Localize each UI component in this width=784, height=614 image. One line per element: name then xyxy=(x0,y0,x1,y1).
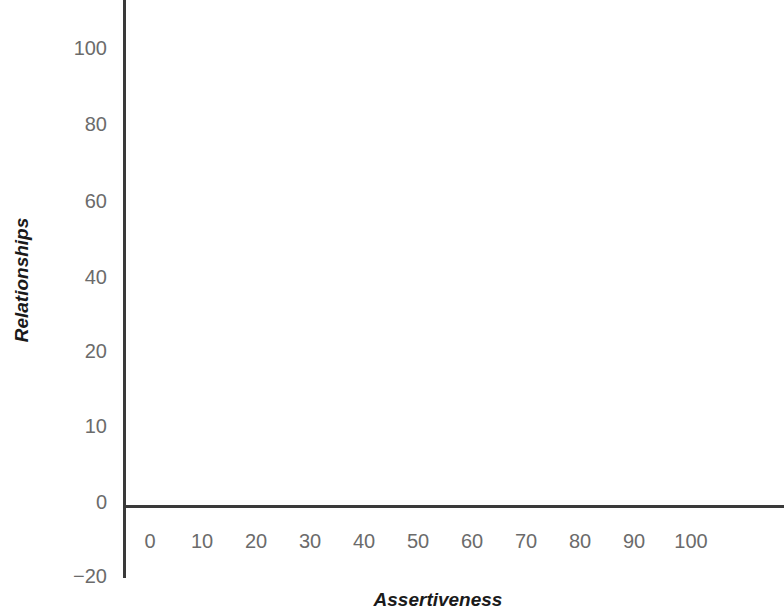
x-axis-tick-label: 40 xyxy=(353,531,375,551)
y-axis-tick-label: 10 xyxy=(85,416,107,436)
chart-canvas: 10080604020100−20 0102030405060708090100… xyxy=(0,0,784,614)
y-axis-tick-label: 80 xyxy=(85,114,107,134)
y-axis-tick-label: −20 xyxy=(73,566,107,586)
y-axis-tick-label: 60 xyxy=(85,191,107,211)
y-axis-tick-label: 100 xyxy=(74,38,107,58)
x-axis-tick-label: 10 xyxy=(191,531,213,551)
x-axis-line xyxy=(123,505,784,508)
x-axis-tick-label: 50 xyxy=(407,531,429,551)
y-axis-title: Relationships xyxy=(11,218,33,343)
y-axis-tick-label: 0 xyxy=(96,492,107,512)
x-axis-tick-label: 20 xyxy=(245,531,267,551)
x-axis-tick-label: 30 xyxy=(299,531,321,551)
plot-area xyxy=(126,0,784,505)
x-axis-tick-label: 90 xyxy=(623,531,645,551)
x-axis-tick-label: 0 xyxy=(144,531,155,551)
y-axis-tick-label: 20 xyxy=(85,341,107,361)
x-axis-title: Assertiveness xyxy=(374,589,503,611)
x-axis-tick-label: 80 xyxy=(569,531,591,551)
x-axis-tick-label: 100 xyxy=(674,531,707,551)
y-axis-tick-label: 40 xyxy=(85,267,107,287)
x-axis-tick-label: 70 xyxy=(515,531,537,551)
x-axis-tick-label: 60 xyxy=(461,531,483,551)
